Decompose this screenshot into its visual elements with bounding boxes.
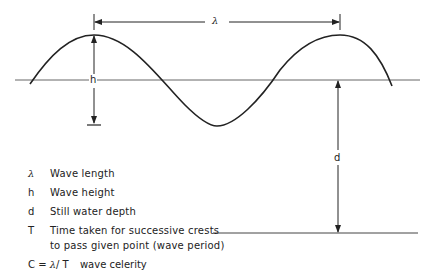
- formula-lhs: C =: [28, 259, 50, 270]
- legend-symbol: h: [28, 186, 44, 199]
- legend-symbol: T: [28, 224, 44, 237]
- height-label: h: [89, 74, 97, 86]
- legend-symbol: λ: [28, 167, 44, 180]
- legend-text: Wave length: [50, 167, 115, 180]
- celerity-formula: C = λ/ T wave celerity: [28, 259, 147, 270]
- wavelength-label: λ: [211, 15, 219, 27]
- formula-rhs: / T: [56, 259, 69, 270]
- formula-text: wave celerity: [80, 259, 147, 270]
- legend-text: Still water depth: [50, 205, 136, 218]
- legend-text: Time taken for successive crests: [50, 224, 219, 237]
- legend-text: Wave height: [50, 186, 115, 199]
- legend-symbol: d: [28, 205, 44, 218]
- depth-label: d: [333, 152, 341, 164]
- legend-text: to pass given point (wave period): [50, 239, 225, 252]
